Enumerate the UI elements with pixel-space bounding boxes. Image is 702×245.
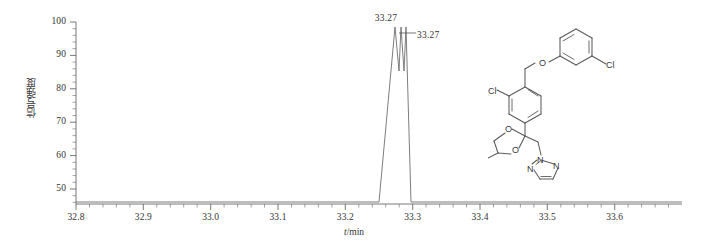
xtick-label-32-8: 32.8 (67, 213, 84, 223)
bond-ether-o-to-ring (525, 63, 535, 69)
xtick-label-33-3: 33.3 (404, 213, 421, 223)
right-chlorophenyl-ring (560, 29, 592, 65)
ytick-label-60: 60 (46, 151, 66, 161)
ytick-label-70: 70 (46, 117, 66, 127)
molecule-canvas: Cl O Cl O O N N N (488, 12, 650, 180)
ytick-label-50: 50 (46, 184, 66, 194)
left-chlorophenyl-ring (509, 69, 541, 123)
bond-cl-left (497, 90, 509, 96)
xtick-label-33-5: 33.5 (539, 213, 556, 223)
y-major-ticks (70, 22, 76, 189)
y-minor-ticks (73, 29, 77, 203)
dioxolane-o-bottom-label: O (512, 145, 519, 155)
bond-cl-right (592, 56, 606, 64)
peak-apex-label: 33.27 (375, 13, 397, 23)
xtick-label-32-9: 32.9 (135, 213, 152, 223)
x-axis-title: t/min (344, 227, 364, 237)
ytick-label-90: 90 (46, 51, 66, 61)
cl-right-label: Cl (606, 60, 615, 70)
bond-ch2-to-n1 (538, 142, 541, 155)
ether-o-label: O (539, 58, 546, 68)
bond-dioxolane-methyl (488, 153, 498, 158)
ytick-label-80: 80 (46, 84, 66, 94)
cl-left-label: Cl (488, 86, 497, 96)
xtick-label-33-1: 33.1 (269, 213, 286, 223)
triazole-n2-label: N (553, 161, 560, 171)
bond-c2-to-ch2 (525, 136, 538, 142)
bond-ring-to-ether-o (549, 56, 560, 62)
triazole-n1-label: N (537, 155, 544, 165)
xtick-label-33-2: 33.2 (337, 213, 354, 223)
peak-second-label: 33.27 (417, 30, 439, 40)
x-minor-ticks (90, 204, 669, 208)
dioxolane-o-top-label: O (505, 124, 512, 134)
difenoconazole-structure: Cl O Cl O O N N N (488, 12, 650, 180)
xtick-label-33-4: 33.4 (471, 213, 488, 223)
y-axis-title: 信号强度 (26, 78, 40, 118)
ytick-label-100: 100 (46, 17, 66, 27)
xtick-label-33-0: 33.0 (202, 213, 219, 223)
xtick-label-33-6: 33.6 (606, 213, 623, 223)
chromatogram-figure-page: 100 90 80 70 60 50 32.8 32.9 33.0 33.1 3… (0, 0, 702, 245)
triazole-n4-label: N (527, 164, 534, 174)
